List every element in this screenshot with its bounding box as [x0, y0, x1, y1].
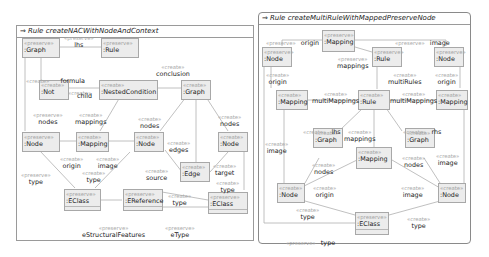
edge-label-nodes-left: «create»nodes: [312, 162, 335, 176]
stereotype: «preserve»: [373, 48, 401, 55]
node-name: :EReference: [124, 197, 162, 205]
node-ereference[interactable]: «preserve» :EReference: [123, 189, 163, 211]
node-create-node[interactable]: «create» :Node: [134, 132, 164, 152]
edge-label-edges: «create»edges: [167, 140, 190, 154]
edge-label-estructuralfeatures: «preserve»eStructuralFeatures: [82, 225, 145, 239]
node-preserve-node[interactable]: «preserve» :Node: [22, 132, 60, 152]
node-mapping[interactable]: «create» :Mapping: [76, 132, 109, 152]
stereotype: «create»: [439, 184, 465, 191]
node-node-right-preserve[interactable]: «preserve» :Node: [434, 47, 464, 67]
node-name: :Not: [40, 88, 68, 96]
edge-label-mappings-create: «create»mappings: [344, 129, 375, 143]
node-name: :Graph: [23, 46, 59, 54]
stereotype: «preserve»: [102, 39, 138, 46]
node-edge[interactable]: «create» :Edge: [180, 162, 210, 182]
stereotype: «create»: [182, 81, 210, 88]
stereotype: «preserve»: [435, 48, 463, 55]
stereotype: «preserve»: [65, 190, 100, 197]
node-name: :Mapping: [277, 98, 307, 106]
edge-label-mappings: «create»mappings: [75, 112, 106, 126]
arrow-right-icon: ⇒: [262, 14, 268, 22]
edge-label-mappings-preserve: «preserve»mappings: [337, 56, 368, 70]
rule-title-text: Rule createMultiRuleWithMappedPreserveNo…: [270, 14, 436, 22]
edge-label-type-create: «create»type: [82, 170, 105, 184]
node-name: :Edge: [181, 170, 209, 178]
stereotype: «create»: [357, 148, 391, 155]
stereotype: «create»: [219, 133, 247, 140]
edge-label-nodes-preserve: «preserve»nodes: [33, 112, 63, 126]
edge-label-type-target: «create»type: [216, 180, 239, 194]
edge-label-origin-right: «create»origin: [435, 72, 458, 86]
node-graph-conclusion[interactable]: «create» :Graph: [181, 80, 211, 100]
arrow-right-icon: ⇒: [20, 27, 26, 35]
rule-title-text: Rule createNACWithNodeAndContext: [28, 27, 159, 35]
node-mapping-right-create[interactable]: «create» :Mapping: [436, 90, 468, 110]
edge-label-multimappings-right: «create»multiMappings: [390, 91, 437, 105]
stereotype: «create»: [77, 133, 108, 140]
node-name: :Rule: [102, 46, 138, 54]
stereotype: «create»: [277, 91, 307, 98]
edge-label-nodes-create: «create»nodes: [138, 116, 161, 130]
node-rule-create[interactable]: «create» :Rule: [358, 90, 390, 110]
edge-label-type-right: «create»type: [407, 216, 430, 230]
node-mapping-left-create[interactable]: «create» :Mapping: [276, 90, 308, 110]
node-rule-preserve[interactable]: «preserve» :Rule: [372, 47, 402, 67]
stereotype: «create»: [135, 133, 163, 140]
stereotype: «create»: [437, 91, 467, 98]
edge-label-image: «create»image: [96, 156, 119, 170]
edge-label-lhs: «preserve»lhs: [64, 35, 94, 49]
node-name: :Node: [435, 55, 463, 63]
node-name: :Mapping: [357, 155, 391, 163]
edge-label-multirules: «create»multiRules: [388, 72, 422, 86]
node-nested-condition[interactable]: «create» :NestedCondition: [99, 80, 158, 100]
edge-label-multimappings-left: «create»multiMappings: [312, 91, 359, 105]
stereotype: «preserve»: [323, 31, 354, 38]
stereotype: «preserve»: [209, 193, 247, 200]
node-node-bottom-left-create[interactable]: «create» :Node: [277, 183, 305, 203]
node-name: :Graph: [182, 88, 210, 96]
node-name: :EClass: [209, 200, 247, 208]
edge-label-source: «create»source: [145, 168, 168, 182]
node-graph-lhs[interactable]: «preserve» :Graph: [22, 38, 60, 58]
edge-label-origin-left: «create»origin: [266, 72, 289, 86]
stereotype: «preserve»: [23, 39, 59, 46]
edge-label-image-left: «create»image: [265, 141, 288, 155]
edge-label-type-edge: «create»type: [168, 193, 191, 207]
edge-label-type-preserve: «preserve» type: [286, 230, 335, 249]
edge-label-image-preserve: «preserve» image: [395, 30, 450, 49]
node-mapping-preserve[interactable]: «preserve» :Mapping: [322, 30, 355, 52]
edge-label-target: «create»target: [213, 163, 236, 177]
stereotype: «create»: [100, 81, 157, 88]
edge-label-nodes-create-right: «create»nodes: [218, 114, 241, 128]
stereotype: «create»: [359, 91, 389, 98]
node-mapping-mid-create[interactable]: «create» :Mapping: [356, 147, 392, 169]
node-eclass-preserve[interactable]: «preserve» :EClass: [355, 212, 389, 235]
node-name: :Rule: [359, 98, 389, 106]
node-name: :Mapping: [77, 140, 108, 148]
node-name: :Rule: [373, 55, 401, 63]
stereotype: «create»: [278, 184, 304, 191]
edge-label-etype: «preserve»eType: [165, 225, 195, 239]
edge-label-image-bottom: «create»image: [401, 185, 424, 199]
node-node-left-preserve[interactable]: «preserve» :Node: [262, 47, 292, 67]
rule-title-left: ⇒Rule createNACWithNodeAndContext: [17, 26, 253, 38]
edge-label-origin-bottom: «create»origin: [313, 185, 336, 199]
node-name: :EClass: [65, 197, 100, 205]
node-name: :Node: [135, 140, 163, 148]
node-eclass[interactable]: «preserve» :EClass: [64, 189, 101, 211]
edge-label-child-name: child: [77, 92, 92, 100]
stereotype: «create»: [181, 163, 209, 170]
edge-label-rhs: «create» rhs: [403, 119, 441, 138]
node-create-node-target[interactable]: «create» :Node: [218, 132, 248, 152]
node-node-bottom-right-create[interactable]: «create» :Node: [438, 183, 466, 203]
stereotype: «preserve»: [356, 213, 388, 220]
edge-label-nodes-right: «create»nodes: [402, 155, 425, 169]
edge-label-image-right: «create»image: [436, 153, 459, 167]
node-name: :Node: [278, 191, 304, 199]
node-name: :NestedCondition: [100, 88, 157, 96]
node-eclass-target[interactable]: «preserve» :EClass: [208, 192, 248, 214]
node-name: :Node: [439, 191, 465, 199]
node-rule[interactable]: «preserve» :Rule: [101, 38, 139, 58]
node-name: :EClass: [356, 220, 388, 228]
node-name: :Mapping: [323, 38, 354, 46]
